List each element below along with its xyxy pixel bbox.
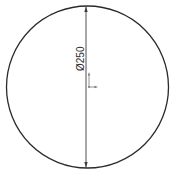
arrow-down-icon [84,162,87,168]
dimension-label[interactable]: Ø250 [75,46,86,71]
arrow-up-icon [84,7,87,13]
sketch-canvas[interactable]: Ø250 [0,0,174,184]
diameter-dimension[interactable]: Ø250 [75,7,88,168]
origin-triad-icon [88,72,98,88]
sketch-circle[interactable] [7,6,169,168]
